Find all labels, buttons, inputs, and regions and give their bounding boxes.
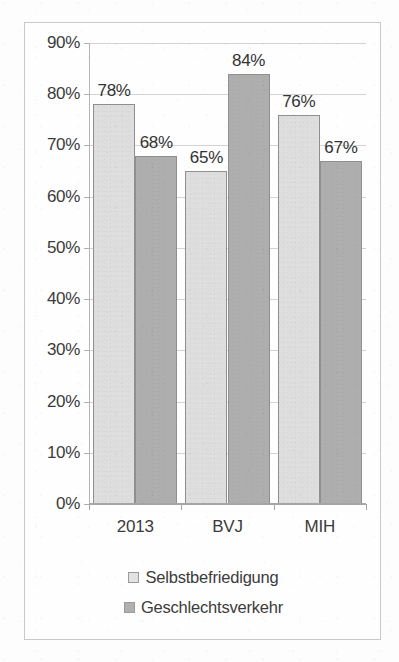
y-axis-label: 40%: [47, 289, 80, 309]
y-axis-label: 50%: [47, 238, 80, 258]
bar-BVJ-Selbstbefriedigung[interactable]: [185, 171, 227, 504]
gridline-0%: [89, 504, 366, 505]
chart-legend: SelbstbefriedigungGeschlechtsverkehr: [25, 568, 382, 617]
bar-value-label: 65%: [190, 148, 223, 168]
x-tick: [274, 504, 275, 510]
chart-frame: 0%10%20%30%40%50%60%70%80%90% 78%68%65%8…: [24, 22, 381, 640]
x-axis-label-BVJ: BVJ: [212, 517, 243, 537]
bar-value-label: 78%: [98, 81, 131, 101]
bar-value-label: 84%: [232, 51, 265, 71]
legend-item-Geschlechtsverkehr[interactable]: Geschlechtsverkehr: [124, 598, 283, 617]
x-axis-line: [89, 503, 366, 504]
y-axis-label: 30%: [47, 340, 80, 360]
x-axis-label-MIH: MIH: [305, 517, 336, 537]
y-axis-label: 70%: [47, 135, 80, 155]
bar-value-label: 67%: [324, 138, 357, 158]
y-axis-label: 60%: [47, 187, 80, 207]
legend-item-Selbstbefriedigung[interactable]: Selbstbefriedigung: [128, 568, 278, 587]
y-tick-20%: [84, 402, 90, 403]
y-tick-40%: [84, 299, 90, 300]
y-axis-label: 0%: [56, 494, 80, 514]
x-tick: [366, 504, 367, 510]
bar-2013-Selbstbefriedigung[interactable]: [93, 104, 135, 504]
y-tick-50%: [84, 248, 90, 249]
plot-area: 0%10%20%30%40%50%60%70%80%90% 78%68%65%8…: [89, 43, 366, 504]
legend-swatch-dark: [124, 602, 135, 613]
y-tick-80%: [84, 94, 90, 95]
y-tick-90%: [84, 43, 90, 44]
y-axis-label: 90%: [47, 33, 80, 53]
bar-MIH-Selbstbefriedigung[interactable]: [278, 115, 320, 504]
y-tick-70%: [84, 145, 90, 146]
bar-2013-Geschlechtsverkehr[interactable]: [135, 156, 177, 504]
bar-value-label: 68%: [140, 133, 173, 153]
legend-item-label: Geschlechtsverkehr: [141, 598, 283, 617]
y-axis-label: 10%: [47, 443, 80, 463]
y-tick-30%: [84, 350, 90, 351]
bar-value-label: 76%: [282, 92, 315, 112]
gridline-90%: [89, 43, 366, 44]
y-axis-label: 20%: [47, 392, 80, 412]
bar-BVJ-Geschlechtsverkehr[interactable]: [228, 74, 270, 504]
legend-item-label: Selbstbefriedigung: [145, 568, 278, 587]
y-axis-label: 80%: [47, 84, 80, 104]
bar-MIH-Geschlechtsverkehr[interactable]: [320, 161, 362, 504]
x-tick: [89, 504, 90, 510]
x-axis-label-2013: 2013: [117, 517, 154, 537]
legend-swatch-light: [128, 572, 139, 583]
y-axis-line: [89, 43, 90, 504]
y-tick-60%: [84, 197, 90, 198]
y-tick-10%: [84, 453, 90, 454]
x-tick: [181, 504, 182, 510]
